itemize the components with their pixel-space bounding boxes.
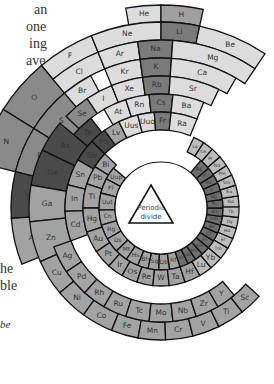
element-symbol: Be — [225, 40, 235, 49]
element-symbol: Fm — [196, 243, 203, 248]
element-symbol: Ra — [177, 119, 187, 128]
element-symbol: Dy — [227, 219, 233, 224]
element-symbol: Ga — [42, 199, 52, 208]
element-symbol: Nb — [178, 306, 189, 315]
element-symbol: Ru — [113, 299, 123, 308]
element-symbol: Er — [221, 237, 226, 242]
element-symbol: Cu — [52, 268, 62, 277]
element-symbol: W — [157, 273, 165, 282]
element-symbol: Ta — [171, 272, 180, 281]
element-symbol: Po — [99, 137, 108, 146]
element-symbol: Tb — [227, 209, 234, 214]
element-symbol: Ce — [200, 149, 206, 154]
element-symbol: Hg — [87, 214, 98, 223]
element-symbol: Pu — [212, 201, 218, 206]
figure-page: anoneingave. Itheblebe HeHFNeLiBeONClArN… — [0, 0, 274, 384]
element-symbol: Bh — [141, 255, 149, 262]
element-symbol: Fl — [108, 184, 113, 191]
element-symbol: Pa — [206, 180, 212, 185]
element-symbol: Pm — [219, 171, 226, 176]
element-symbol: Lu — [197, 260, 206, 269]
element-symbol: Mn — [147, 326, 158, 335]
element-symbol: Nd — [214, 163, 220, 168]
element-symbol: Bi — [102, 160, 109, 169]
element-symbol: Te — [83, 128, 92, 137]
element-symbol: Lv — [112, 128, 121, 137]
element-symbol: Mt — [123, 245, 131, 252]
element-symbol: Br — [78, 86, 87, 95]
element-symbol: Cn — [104, 212, 112, 219]
element-symbol: Sc — [240, 293, 249, 302]
element-symbol: Sm — [223, 180, 230, 185]
element-symbol: Uup — [110, 173, 122, 181]
element-symbol: Zr — [200, 299, 209, 308]
element-symbol: Rh — [94, 288, 104, 297]
element-symbol: Tm — [213, 246, 221, 251]
element-symbol: Hf — [185, 267, 194, 276]
element-symbol: Pb — [93, 173, 103, 182]
element-symbol: Rf — [170, 256, 177, 263]
element-symbol: As — [61, 141, 70, 150]
element-symbol: Sg — [151, 257, 159, 265]
element-symbol: Co — [96, 311, 106, 320]
element-symbol: Cd — [71, 220, 81, 229]
element-symbol: Ge — [47, 168, 58, 177]
periodic-divide: Periodic divide — [115, 162, 207, 254]
element-symbol: Tc — [134, 306, 142, 315]
element-symbol: F — [68, 51, 72, 60]
element-symbol: Ti — [222, 307, 229, 316]
element-symbol: Os — [128, 267, 138, 276]
element-symbol: Lr — [179, 255, 184, 260]
element-symbol: Mg — [207, 53, 218, 62]
element-symbol: Li — [176, 27, 182, 36]
element-symbol: Rn — [134, 100, 144, 109]
element-symbol: Es — [202, 237, 208, 242]
element-symbol: Cr — [174, 325, 183, 334]
element-symbol: N — [4, 137, 10, 146]
element-symbol: Bk — [209, 224, 215, 229]
element-symbol: Rg — [107, 225, 115, 233]
element-symbol: Tl — [88, 192, 96, 201]
element-symbol: Am — [211, 209, 218, 214]
element-symbol: Uus — [124, 121, 138, 130]
element-symbol: Zn — [46, 233, 56, 242]
element-symbol: Uuo — [140, 117, 155, 126]
element-symbol: Ir — [117, 260, 123, 269]
center-label-line1: Periodic — [137, 204, 165, 212]
element-symbol: Na — [150, 44, 160, 53]
element-symbol: O — [31, 93, 37, 102]
element-symbol: Re — [142, 272, 152, 281]
element-symbol: Cs — [156, 98, 165, 107]
element-symbol: Kr — [120, 67, 129, 76]
element-symbol: Hs — [132, 251, 140, 258]
element-symbol: In — [71, 194, 78, 203]
element-symbol: Ni — [73, 293, 81, 302]
element-symbol: Yb — [205, 253, 216, 262]
element-symbol: U — [210, 187, 213, 192]
element-symbol: Rb — [152, 80, 162, 89]
spiral-periodic-table: HeHFNeLiBeONClArNaMgSPSiAlBrKrKCaSeIXeRb… — [0, 0, 274, 384]
element-symbol: Ca — [197, 68, 207, 77]
element-symbol: Ho — [224, 228, 230, 233]
element-symbol: Ds — [114, 236, 122, 243]
element-symbol: Ne — [122, 29, 133, 38]
element-symbol: Ar — [116, 49, 125, 58]
element-symbol: Uut — [102, 198, 113, 205]
element-symbol: Y — [218, 289, 224, 298]
element-symbol: Sn — [76, 170, 86, 179]
element-symbol: Eu — [226, 189, 232, 194]
element-symbol: Pt — [104, 249, 112, 258]
element-symbol: Xe — [124, 84, 134, 93]
element-symbol: Se — [77, 109, 87, 118]
center-label-line2: divide — [140, 213, 161, 221]
element-symbol: Fr — [159, 116, 167, 125]
element-symbol: Np — [211, 194, 217, 199]
element-symbol: At — [114, 107, 122, 116]
element-symbol: Ag — [62, 251, 72, 260]
element-symbol: Cf — [206, 231, 211, 236]
element-symbol: Gd — [228, 199, 234, 204]
element-symbol: Au — [93, 234, 103, 243]
element-symbol: La — [192, 144, 198, 149]
element-symbol: He — [139, 9, 150, 18]
element-symbol: V — [200, 319, 206, 328]
